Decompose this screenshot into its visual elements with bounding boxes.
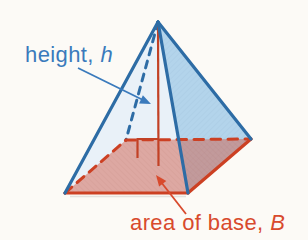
pyramid-diagram: height, h area of base, B — [0, 0, 308, 240]
height-symbol: h — [100, 42, 113, 67]
base-area-label: area of base, B — [130, 210, 285, 235]
base-area-symbol: B — [270, 210, 285, 235]
height-label-text: height, — [25, 42, 100, 67]
diagram-canvas: height, h area of base, B — [0, 0, 308, 240]
height-line — [158, 24, 159, 166]
base-area-label-text: area of base, — [130, 210, 270, 235]
height-label: height, h — [25, 42, 113, 67]
